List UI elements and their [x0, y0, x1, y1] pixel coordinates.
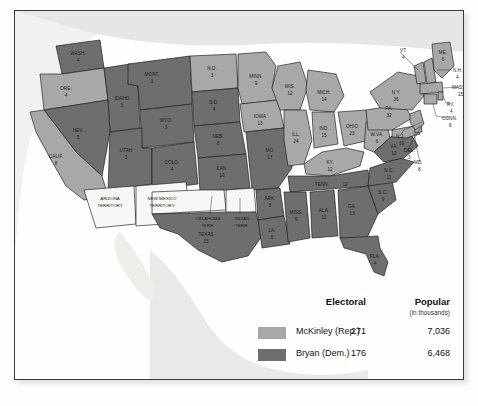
label-ohio-n: 23 [349, 131, 355, 136]
label-iowa: IOWA [254, 114, 267, 119]
label-ohio: OHIO [346, 124, 358, 129]
label-ark: ARK. [264, 196, 275, 201]
label-ky: KY. [326, 160, 333, 165]
label-ga-n: 13 [349, 211, 355, 216]
label-conn-n: 6 [449, 123, 452, 128]
label-la-n: 8 [271, 235, 274, 240]
label-tenn-n: 12 [342, 182, 348, 187]
label-idaho-n: 3 [121, 103, 124, 108]
label-wis-n: 12 [287, 91, 293, 96]
label-me-n: 6 [442, 57, 445, 62]
state-conn [424, 94, 437, 104]
label-mo: MO. [266, 148, 275, 153]
legend-popular-bryan: 6,468 [374, 348, 450, 358]
label-va: VA. [390, 144, 397, 149]
state-ri [438, 92, 443, 100]
label-del: DEL. [404, 148, 415, 153]
label-mich: MICH. [317, 90, 331, 95]
label-oklahoma-territory-2: TERR. [201, 223, 214, 228]
label-indian-territory-2: TERR. [235, 223, 248, 228]
label-ill-n: 24 [293, 139, 299, 144]
label-neb-n: 8 [217, 141, 220, 146]
label-md: MD. [414, 160, 423, 165]
label-nj-n: 10 [399, 141, 405, 146]
legend-swatch-mckinley [258, 327, 286, 339]
label-ala: ALA. [319, 208, 329, 213]
label-mass: MASS. [452, 85, 467, 90]
label-calif: CALIF. [49, 154, 63, 159]
label-nev: NEV. [73, 128, 84, 133]
label-newmexico-territory-1: NEW MEXICO [148, 196, 177, 201]
label-mont: MONT. [145, 72, 160, 77]
label-conn: CONN. [442, 116, 457, 121]
label-sc: S.C. [378, 190, 387, 195]
label-arizona-territory-1: ARIZONA [100, 196, 120, 201]
legend-header: Electoral Popular (in thousands) [258, 296, 453, 324]
state-nd [190, 54, 238, 92]
label-nd: N.D. [207, 66, 217, 71]
label-utah-n: 3 [125, 155, 128, 160]
election-map-figure: .rep{fill:#a8a8a8;stroke:#1b1b1b;stroke-… [0, 0, 478, 406]
state-fla [340, 236, 388, 276]
label-ind: IND. [319, 126, 329, 131]
label-me: ME. [439, 50, 447, 55]
state-neb [194, 122, 246, 158]
label-iowa-n: 13 [257, 121, 263, 126]
label-va-n: 12 [391, 151, 397, 156]
label-sd-n: 4 [213, 107, 216, 112]
label-vt-n: 4 [402, 55, 405, 60]
label-ala-n: 11 [322, 215, 327, 220]
label-calif-n: 8 [55, 161, 58, 166]
legend-col-electoral: Electoral [300, 296, 366, 307]
label-wva: W.VA. [371, 132, 384, 137]
label-arizona-territory-2: TERRITORY [97, 203, 122, 208]
label-sc-n: 9 [382, 197, 385, 202]
label-nc-n: 11 [387, 175, 392, 180]
state-ill [284, 110, 312, 166]
label-wash-n: 4 [77, 58, 80, 63]
label-del-n: 3 [408, 155, 411, 160]
label-ny: N.Y. [392, 90, 401, 95]
label-minn-n: 9 [255, 81, 258, 86]
territory-oklahoma [152, 190, 226, 214]
label-tenn: TENN. [315, 182, 329, 187]
legend-col-popular-subtitle: (in thousands) [374, 309, 450, 316]
label-mich-n: 14 [321, 97, 327, 102]
label-sd: S.D. [209, 100, 218, 105]
label-kan-n: 10 [219, 173, 225, 178]
label-idaho: IDAHO [114, 96, 129, 101]
label-newmexico-territory-2: TERRITORY [149, 203, 174, 208]
label-minn: MINN. [249, 74, 263, 79]
label-wva-n: 6 [376, 139, 379, 144]
map-legend: Electoral Popular (in thousands) McKinle… [258, 296, 453, 368]
label-wis: WIS. [285, 84, 295, 89]
label-nev-n: 3 [77, 135, 80, 140]
label-nh: N.H. [453, 68, 463, 73]
state-sd [192, 88, 240, 126]
legend-electoral-bryan: 176 [300, 348, 366, 358]
label-texas: TEXAS [198, 232, 214, 237]
label-ill: ILL. [292, 132, 300, 137]
label-indian-territory-1: INDIAN [235, 216, 250, 221]
label-fla: FLA. [370, 254, 380, 259]
legend-col-popular: Popular [374, 296, 450, 307]
label-miss: MISS. [289, 210, 302, 215]
state-ala [310, 190, 338, 238]
label-utah: UTAH [120, 148, 133, 153]
label-wash: WASH. [70, 51, 85, 56]
legend-popular-mckinley: 7,036 [374, 326, 450, 336]
label-ga: GA. [348, 204, 356, 209]
label-mo-n: 17 [267, 155, 273, 160]
label-pa: PA. [385, 106, 392, 111]
baja-landmass [115, 232, 155, 300]
label-nj: N.J. [396, 134, 405, 139]
label-pa-n: 32 [386, 113, 392, 118]
label-ind-n: 15 [321, 133, 327, 138]
label-nh-n: 4 [456, 75, 459, 80]
label-ark-n: 8 [269, 203, 272, 208]
label-vt: VT. [400, 48, 407, 53]
label-ky-n: 12 [327, 167, 333, 172]
label-miss-n: 9 [295, 217, 298, 222]
label-mass-n: 15 [458, 92, 464, 97]
territory-indian [226, 188, 256, 214]
